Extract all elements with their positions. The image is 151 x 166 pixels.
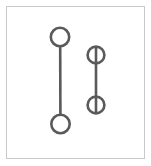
diagram-canvas [0,0,151,166]
diagram-svg [0,0,151,166]
outer-frame [7,7,145,159]
